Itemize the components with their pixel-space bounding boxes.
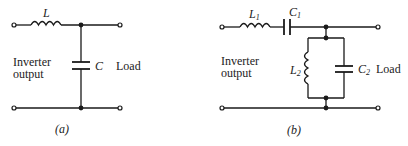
label-b-inductor2: L2	[289, 63, 301, 78]
label-a-source-2: output	[13, 67, 44, 81]
terminal-a-out-top	[118, 23, 122, 27]
terminal-a-in-top	[12, 23, 16, 27]
label-b-capacitor1: C1	[289, 5, 301, 20]
filter-circuits-diagram: L C Load Inverter output (a)	[0, 0, 408, 146]
label-a-capacitor: C	[95, 59, 104, 73]
terminal-b-in-top	[220, 25, 224, 29]
junction-b-top	[324, 25, 329, 30]
terminal-a-in-bottom	[12, 106, 16, 110]
terminal-a-out-bottom	[118, 106, 122, 110]
junction-b-bottom	[324, 106, 329, 111]
circuit-a: L C Load Inverter output (a)	[12, 6, 141, 136]
junction-a-top	[79, 23, 84, 28]
junction-b-parallel-bottom	[324, 96, 329, 101]
junction-a-bottom	[79, 106, 84, 111]
label-a-load: Load	[116, 59, 141, 73]
terminal-b-out-bottom	[376, 106, 380, 110]
inductor-a-L	[31, 22, 61, 26]
inductor-b-L1	[240, 24, 270, 28]
junction-b-parallel-top	[324, 36, 329, 41]
label-b-load: Load	[376, 62, 401, 76]
terminal-b-in-bottom	[220, 106, 224, 110]
circuit-b: L1 C1 L2 C2 Load Inverter output (b)	[220, 5, 401, 137]
label-b-capacitor2: C2	[358, 62, 370, 77]
label-a-inductor: L	[42, 6, 50, 20]
label-b-inductor1: L1	[248, 7, 260, 22]
label-b-source-2: output	[221, 66, 252, 80]
caption-a: (a)	[55, 122, 69, 136]
terminal-b-out-top	[376, 25, 380, 29]
caption-b: (b)	[287, 123, 301, 137]
inductor-b-L2	[305, 52, 309, 84]
